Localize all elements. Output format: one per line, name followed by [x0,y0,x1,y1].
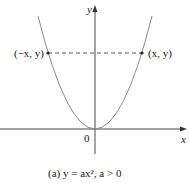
x-axis-arrow-icon [180,127,187,132]
caption: (a) y = ax², a > 0 [48,168,121,179]
y-axis-arrow-icon [93,5,98,12]
point-right [140,51,143,54]
point-left [46,51,49,54]
origin-label: 0 [84,133,90,144]
point-right-label: (x, y) [148,48,172,59]
y-axis-label: y [87,4,92,15]
x-axis-label: x [181,134,186,145]
parabola-diagram [0,0,189,183]
point-left-label: (−x, y) [14,48,44,59]
